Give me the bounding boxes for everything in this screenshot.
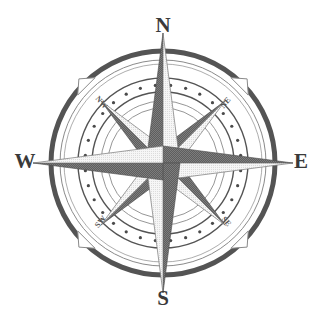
tick-dot xyxy=(211,222,214,225)
tick-dot xyxy=(211,101,214,104)
tick-dot xyxy=(93,125,96,128)
compass-rose-figure: NESWNESESWNW xyxy=(0,0,325,327)
cardinal-label-e: E xyxy=(294,149,308,173)
tick-dot xyxy=(230,125,233,128)
compass-rose-graphic: NESWNESESWNW xyxy=(0,0,325,327)
tick-dot xyxy=(112,222,115,225)
tick-dot xyxy=(112,101,115,104)
tick-dot xyxy=(236,139,239,142)
tick-dot xyxy=(198,230,201,233)
tick-dot xyxy=(101,211,104,214)
tick-dot xyxy=(87,184,90,187)
compass-star xyxy=(33,33,293,293)
tick-dot xyxy=(230,198,233,201)
marker-sw-icon xyxy=(78,231,95,248)
tick-dot xyxy=(139,236,142,239)
marker-nw-icon xyxy=(78,78,95,95)
marker-se-icon xyxy=(231,231,248,248)
marker-ne-icon xyxy=(231,78,248,95)
tick-dot xyxy=(125,93,128,96)
tick-dot xyxy=(101,112,104,115)
tick-dot xyxy=(198,93,201,96)
tick-dot xyxy=(184,236,187,239)
tick-dot xyxy=(236,184,239,187)
tick-dot xyxy=(87,139,90,142)
tick-dot xyxy=(222,211,225,214)
tick-dot xyxy=(93,198,96,201)
tick-dot xyxy=(222,112,225,115)
ordinal-label-se: SE xyxy=(220,215,234,229)
cardinal-label-s: S xyxy=(157,286,169,310)
tick-dot xyxy=(184,87,187,90)
ordinal-label-sw: SW xyxy=(93,214,108,230)
tick-dot xyxy=(125,230,128,233)
tick-dot xyxy=(139,87,142,90)
cardinal-label-n: N xyxy=(155,13,170,37)
cardinal-label-w: W xyxy=(15,149,36,173)
